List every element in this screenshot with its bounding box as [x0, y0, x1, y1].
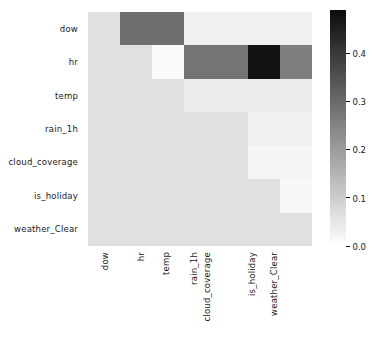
colorbar: 0.00.10.20.30.4	[330, 10, 376, 246]
heatmap-plot-area	[88, 12, 312, 246]
heatmap-cell	[216, 79, 248, 112]
heatmap-cell	[248, 79, 280, 112]
colorbar-tick-mark	[346, 53, 350, 54]
y-tick-label: cloud_coverage	[0, 146, 83, 179]
heatmap-cell	[216, 112, 248, 145]
heatmap-cell	[120, 179, 152, 212]
y-tick-label: dow	[0, 12, 83, 45]
heatmap-figure: dowhrtemprain_1hcloud_coverageis_holiday…	[0, 0, 376, 342]
heatmap-cell	[216, 213, 248, 246]
heatmap-cell	[88, 45, 120, 78]
heatmap-cell	[88, 179, 120, 212]
y-tick-label: is_holiday	[0, 179, 83, 212]
y-axis-tick-labels: dowhrtemprain_1hcloud_coverageis_holiday…	[0, 12, 83, 246]
heatmap-cell	[184, 179, 216, 212]
heatmap-cell	[248, 179, 280, 212]
heatmap-cell	[216, 179, 248, 212]
y-tick-label: rain_1h	[0, 112, 83, 145]
heatmap-cell	[184, 112, 216, 145]
heatmap-cell	[216, 146, 248, 179]
heatmap-cell	[88, 79, 120, 112]
x-tick-label-slot: weather_Clear	[280, 246, 312, 342]
heatmap-cell	[88, 12, 120, 45]
heatmap-cell	[152, 12, 184, 45]
y-tick-label: weather_Clear	[0, 213, 83, 246]
x-tick-label: dow	[100, 252, 110, 270]
x-tick-label-slot: hr	[120, 246, 152, 342]
heatmap-cell	[152, 79, 184, 112]
heatmap-cell	[152, 146, 184, 179]
heatmap-cell	[248, 45, 280, 78]
heatmap-cell-grid	[88, 12, 312, 246]
x-tick-label: is_holiday	[247, 252, 257, 296]
heatmap-cell	[120, 146, 152, 179]
x-tick-label: rain_1h	[189, 252, 199, 285]
heatmap-cell	[248, 112, 280, 145]
heatmap-cell	[280, 79, 312, 112]
heatmap-cell	[280, 12, 312, 45]
heatmap-cell	[248, 213, 280, 246]
heatmap-cell	[152, 179, 184, 212]
heatmap-cell	[120, 213, 152, 246]
heatmap-cell	[120, 112, 152, 145]
heatmap-cell	[120, 45, 152, 78]
heatmap-cell	[280, 45, 312, 78]
x-axis-tick-labels: dowhrtemprain_1hcloud_coverageis_holiday…	[88, 246, 312, 342]
colorbar-tick-mark	[346, 149, 350, 150]
heatmap-cell	[88, 213, 120, 246]
x-tick-label: temp	[161, 252, 171, 275]
colorbar-tick-label: 0.3	[353, 98, 367, 107]
colorbar-tick-label: 0.0	[353, 242, 367, 251]
y-tick-label: hr	[0, 45, 83, 78]
colorbar-tick-mark	[346, 246, 350, 247]
heatmap-cell	[280, 213, 312, 246]
heatmap-cell	[184, 79, 216, 112]
heatmap-cell	[184, 45, 216, 78]
x-tick-label: weather_Clear	[269, 252, 279, 316]
colorbar-tick-label: 0.4	[353, 50, 367, 59]
heatmap-cell	[216, 45, 248, 78]
x-tick-label-slot: cloud_coverage	[216, 246, 248, 342]
heatmap-cell	[248, 146, 280, 179]
heatmap-cell	[152, 213, 184, 246]
colorbar-gradient	[330, 10, 346, 246]
y-tick-label: temp	[0, 79, 83, 112]
heatmap-cell	[120, 79, 152, 112]
heatmap-cell	[120, 12, 152, 45]
heatmap-cell	[248, 12, 280, 45]
x-tick-label-slot: dow	[88, 246, 120, 342]
heatmap-cell	[184, 12, 216, 45]
colorbar-tick-label: 0.2	[353, 146, 367, 155]
colorbar-tick-mark	[346, 197, 350, 198]
heatmap-cell	[88, 112, 120, 145]
heatmap-cell	[280, 112, 312, 145]
heatmap-cell	[152, 112, 184, 145]
x-tick-label-slot: temp	[152, 246, 184, 342]
heatmap-cell	[152, 45, 184, 78]
heatmap-cell	[184, 213, 216, 246]
colorbar-tick-label: 0.1	[353, 194, 367, 203]
heatmap-cell	[88, 146, 120, 179]
heatmap-cell	[280, 179, 312, 212]
heatmap-cell	[216, 12, 248, 45]
colorbar-tick-mark	[346, 101, 350, 102]
x-tick-label: cloud_coverage	[202, 252, 212, 322]
x-tick-label: hr	[136, 252, 146, 261]
heatmap-cell	[184, 146, 216, 179]
heatmap-cell	[280, 146, 312, 179]
